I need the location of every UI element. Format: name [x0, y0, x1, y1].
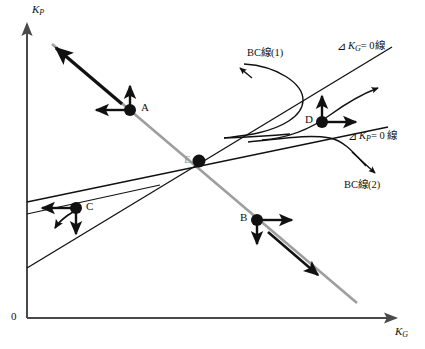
isocline-kp-line	[27, 127, 388, 202]
origin-label: 0	[11, 311, 17, 322]
x-axis-label: KG	[395, 326, 408, 339]
bc-curve-2-label: BC線(2)	[344, 180, 380, 191]
point-A-group[interactable]	[96, 86, 136, 116]
point-A-marker[interactable]	[124, 104, 136, 116]
point-D-label: D	[305, 114, 313, 125]
phase-diagram-figure: KP KG 0 A B C D E BC線(1) BC線(2) ⊿KG= 0線 …	[0, 0, 425, 349]
isocline-kp-group	[27, 127, 388, 202]
bc-curve-1-path	[224, 64, 303, 138]
point-C-label: C	[86, 201, 93, 212]
isocline-kg-group	[27, 47, 392, 268]
saddle-arrow-lower-right	[268, 232, 318, 275]
point-B-label: B	[240, 212, 247, 223]
point-D-marker[interactable]	[316, 116, 328, 128]
point-C-arrow-resultant-curve	[55, 212, 73, 228]
delta-triangle-icon: ⊿	[348, 132, 357, 143]
saddle-path-group	[52, 44, 357, 303]
isocline-kg-line	[27, 47, 392, 268]
bc-curve-1-arrow	[240, 68, 252, 78]
bc-curve-1-label: BC線(1)	[247, 48, 283, 59]
point-D-group[interactable]	[316, 96, 356, 128]
y-axis-label: KP	[32, 4, 44, 17]
point-E-group[interactable]	[193, 155, 206, 168]
bc-curve-2-arrow	[352, 152, 375, 173]
isocline-kp-label: ⊿KP= 0 線	[348, 131, 397, 143]
isocline-kg-label: ⊿KG= 0線	[337, 41, 385, 53]
point-B-marker[interactable]	[251, 214, 263, 226]
point-E-label: E	[184, 154, 191, 165]
saddle-arrow-upper-left	[56, 48, 122, 104]
point-C-marker[interactable]	[70, 202, 82, 214]
bc-curve-1-group	[224, 64, 303, 138]
point-A-label: A	[141, 102, 149, 113]
delta-triangle-icon: ⊿	[337, 42, 346, 53]
point-E-marker[interactable]	[193, 155, 206, 168]
point-C-group[interactable]	[42, 202, 82, 234]
